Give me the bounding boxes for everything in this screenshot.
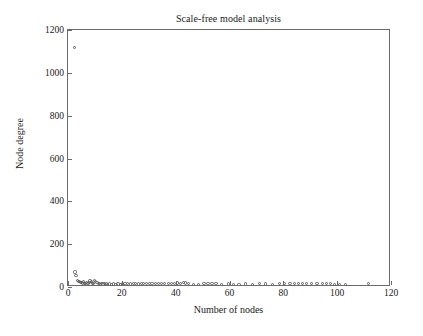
x-tick-mark <box>68 281 69 285</box>
data-point <box>74 274 77 277</box>
y-tick-mark <box>68 30 72 31</box>
data-point <box>237 283 240 285</box>
y-tick-mark <box>68 73 72 74</box>
x-tick-mark <box>176 281 177 285</box>
y-axis-label: Node degree <box>14 89 25 199</box>
x-tick-label: 0 <box>66 288 71 298</box>
x-tick-mark <box>230 281 231 285</box>
y-tick-label: 400 <box>50 196 64 206</box>
x-tick-mark <box>283 281 284 285</box>
data-point <box>258 282 261 285</box>
data-point <box>367 282 370 285</box>
y-tick-label: 1200 <box>45 25 64 35</box>
data-point <box>232 283 235 285</box>
plot-area <box>68 30 389 285</box>
y-tick-label: 1000 <box>45 68 64 78</box>
data-point <box>278 282 281 285</box>
x-tick-mark <box>391 281 392 285</box>
y-tick-label: 0 <box>59 282 64 292</box>
x-tick-mark <box>337 281 338 285</box>
data-point <box>338 283 341 285</box>
y-tick-mark <box>68 201 72 202</box>
data-point <box>271 283 274 285</box>
x-tick-label: 100 <box>330 288 344 298</box>
y-tick-label: 600 <box>50 154 64 164</box>
scale-free-model-scatter-figure: Scale-free model analysis 02004006008001… <box>0 0 423 336</box>
data-point <box>210 282 213 285</box>
data-point <box>321 282 324 285</box>
x-axis-label: Number of nodes <box>67 304 390 315</box>
data-point <box>329 282 332 285</box>
x-tick-label: 60 <box>225 288 235 298</box>
x-tick-label: 40 <box>171 288 181 298</box>
x-tick-label: 120 <box>384 288 398 298</box>
data-point <box>73 46 76 49</box>
data-point <box>187 282 190 285</box>
data-point <box>251 283 254 285</box>
data-point <box>288 282 291 285</box>
y-tick-mark <box>68 159 72 160</box>
data-point <box>244 282 247 285</box>
y-tick-mark <box>68 116 72 117</box>
data-point <box>264 282 267 285</box>
plot-frame: 020040060080010001200 020406080100120 <box>67 29 390 286</box>
data-point <box>315 282 318 285</box>
data-point <box>293 282 296 285</box>
x-tick-label: 20 <box>117 288 127 298</box>
y-tick-mark <box>68 244 72 245</box>
data-point <box>297 282 300 285</box>
x-tick-mark <box>122 281 123 285</box>
data-point <box>310 282 313 285</box>
y-tick-label: 800 <box>50 111 64 121</box>
data-point <box>220 283 223 285</box>
data-point <box>325 282 328 285</box>
data-point <box>202 282 205 285</box>
y-tick-label: 200 <box>50 239 64 249</box>
data-point <box>197 283 200 285</box>
x-tick-label: 80 <box>279 288 289 298</box>
data-point <box>206 282 209 285</box>
data-point <box>301 282 304 285</box>
chart-title: Scale-free model analysis <box>67 13 390 24</box>
data-point <box>344 283 347 285</box>
data-point <box>305 282 308 285</box>
data-point <box>214 282 217 285</box>
data-point <box>192 283 195 285</box>
data-point <box>333 283 336 285</box>
